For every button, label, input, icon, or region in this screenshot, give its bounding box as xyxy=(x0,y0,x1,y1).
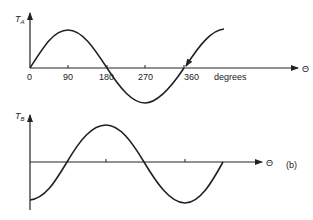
tick-label-90: 90 xyxy=(63,72,73,82)
x-label-a: Θ xyxy=(302,64,309,74)
curve-ta xyxy=(30,30,107,68)
x-unit-label: degrees xyxy=(214,72,247,82)
plot-a: TA 0 90 180 270 360 degrees Θ xyxy=(15,13,309,103)
x-label-b: Θ xyxy=(266,158,273,168)
tick-label-180: 180 xyxy=(99,72,114,82)
curve-ta-return xyxy=(186,29,224,66)
y-label-a: TA xyxy=(15,14,25,25)
panel-label: (b) xyxy=(286,160,297,170)
torque-diagram: TA 0 90 180 270 360 degrees Θ TB Θ (b) xyxy=(0,0,313,220)
plot-b: TB Θ (b) xyxy=(15,111,297,210)
tick-label-270: 270 xyxy=(138,72,153,82)
curve-tb xyxy=(30,125,223,203)
y-label-b: TB xyxy=(15,111,25,122)
tick-label-0: 0 xyxy=(27,72,32,82)
tick-label-360: 360 xyxy=(184,72,199,82)
